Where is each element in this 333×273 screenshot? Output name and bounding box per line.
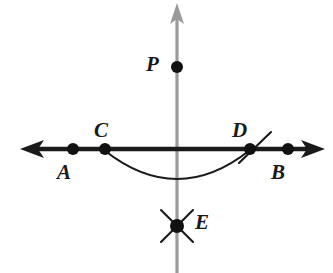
point-A [67, 143, 79, 155]
point-label-P: P [146, 54, 159, 75]
point-P [171, 61, 183, 73]
geometry-canvas [0, 0, 333, 273]
point-E [170, 219, 184, 233]
geometry-diagram: A C D B P E [0, 0, 333, 273]
point-label-C: C [94, 120, 108, 141]
point-label-E: E [195, 212, 209, 233]
point-label-B: B [271, 162, 285, 183]
point-D [244, 143, 256, 155]
horizontal-line-AB [20, 140, 325, 158]
point-B [282, 143, 294, 155]
point-label-A: A [57, 162, 71, 183]
point-label-D: D [232, 120, 247, 141]
point-C [99, 143, 111, 155]
